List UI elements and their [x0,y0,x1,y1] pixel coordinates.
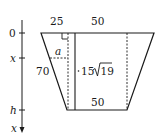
tick-label-0: 0 [9,27,16,39]
label-variable-width: a [55,45,61,57]
trapezoid-diagram: 0 x h x 25 50 a 70 15 19 50 [0,0,162,136]
label-height: 15 19 [78,63,114,77]
label-top-segment: 50 [91,15,104,27]
label-bottom-base: 50 [91,96,104,108]
label-top-left-offset: 25 [50,15,63,27]
tick-label-x: x [10,52,16,64]
leader-dot [78,70,80,72]
axis-arrow-icon [20,127,25,133]
right-angle-marker [62,33,68,39]
height-radicand: 19 [101,65,114,77]
tick-label-h: h [10,104,17,116]
label-slant-side: 70 [36,65,49,77]
depth-axis [19,20,25,133]
axis-end-label: x [11,122,17,134]
height-coefficient: 15 [81,65,94,77]
